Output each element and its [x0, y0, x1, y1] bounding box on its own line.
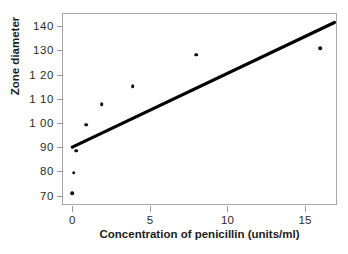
y-tick-mark	[57, 26, 63, 27]
y-tick-mark	[57, 171, 63, 172]
x-tick-mark	[150, 206, 151, 212]
x-tick-mark	[72, 206, 73, 212]
scatter-plot-figure: Zone diameter 7080901 001 101 2013014005…	[0, 0, 348, 254]
y-tick-mark	[57, 147, 63, 148]
y-tick-label: 1 10	[29, 93, 54, 105]
data-point	[71, 191, 75, 195]
x-axis-title: Concentration of penicillin (units/ml)	[62, 228, 337, 240]
y-tick-mark	[57, 123, 63, 124]
x-tick-label: 10	[221, 214, 234, 226]
y-tick-label: 130	[33, 44, 54, 56]
y-tick-mark	[57, 50, 63, 51]
y-tick-label: 90	[40, 141, 54, 153]
x-tick-mark	[227, 206, 228, 212]
data-point	[84, 123, 88, 127]
data-point	[100, 102, 104, 106]
y-axis-title: Zone diameter	[9, 0, 21, 121]
x-tick-label: 15	[299, 214, 312, 226]
data-point	[74, 149, 78, 153]
y-tick-mark	[57, 99, 63, 100]
x-tick-label: 5	[147, 214, 153, 226]
y-tick-label: 1 20	[29, 69, 54, 81]
y-tick-label: 80	[40, 165, 54, 177]
data-point	[131, 84, 135, 88]
data-point	[195, 53, 199, 57]
y-tick-label: 1 00	[29, 117, 54, 129]
plot-area: 7080901 001 101 20130140051015	[62, 13, 337, 205]
x-tick-mark	[305, 206, 306, 212]
y-tick-label: 140	[33, 20, 54, 32]
regression-line	[63, 14, 336, 204]
data-point	[72, 171, 76, 175]
y-tick-label: 70	[40, 190, 54, 202]
x-tick-label: 0	[69, 214, 75, 226]
data-point	[319, 47, 323, 51]
y-tick-mark	[57, 75, 63, 76]
y-tick-mark	[57, 196, 63, 197]
